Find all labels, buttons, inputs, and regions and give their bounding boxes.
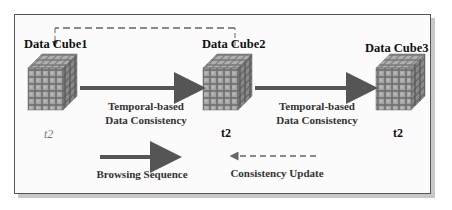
legend-update-label: Consistency Update	[222, 166, 332, 180]
edge1-caption-line1: Temporal-based	[96, 99, 196, 113]
cube3-label: Data Cube3	[365, 41, 429, 56]
data-cube-1-icon	[28, 54, 77, 110]
cube1-time: t2	[44, 127, 53, 142]
cube3-time: t2	[393, 126, 403, 141]
legend-browsing-label: Browsing Sequence	[92, 167, 192, 181]
cube2-label: Data Cube2	[202, 37, 266, 52]
edge2-caption-line1: Temporal-based	[267, 99, 367, 113]
cube1-label: Data Cube1	[24, 37, 88, 52]
edge2-caption-line2: Data Consistency	[267, 113, 367, 127]
cube2-time: t2	[221, 126, 231, 141]
edge2-caption: Temporal-based Data Consistency	[267, 99, 367, 127]
edge1-caption-line2: Data Consistency	[96, 113, 196, 127]
data-cube-3-icon	[376, 54, 425, 110]
data-cube-2-icon	[203, 54, 252, 110]
edge1-caption: Temporal-based Data Consistency	[96, 99, 196, 127]
